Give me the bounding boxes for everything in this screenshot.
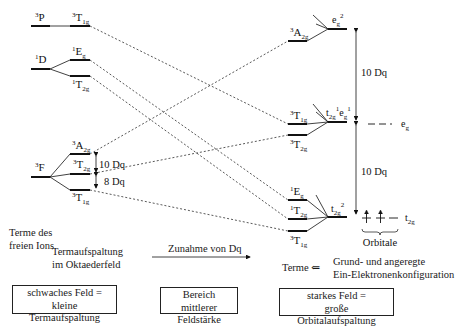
config-caption: Grund- und angeregte Ein-Elektronenkonfi… [333, 256, 454, 281]
free-ion-line2: freien Ions [9, 240, 54, 253]
config-line2: Ein-Elektronenkonfiguration [333, 269, 454, 282]
config-line1: Grund- und angeregte [333, 256, 454, 269]
label-3T1g-weak-top: 3T1g [72, 11, 90, 26]
weak-field-line1: schwaches Feld = [17, 287, 112, 300]
label-3P: 3P [35, 11, 45, 23]
label-1T2g-strong: 1T2g [290, 204, 308, 219]
strong-field-line2: große Orbitalaufspaltung [284, 303, 389, 328]
label-3F: 3F [35, 161, 45, 173]
label-eg2: eg2 [332, 12, 344, 28]
label-3T1g-strong-mid: 3T1g [290, 109, 308, 124]
mid-field-line1: Bereich mittlerer [165, 289, 233, 314]
free-ion-caption: Terme des freien Ions [9, 227, 54, 252]
splitting-line1: Termaufspaltung [52, 246, 123, 259]
label-3A2g-strong: 3A2g [290, 26, 309, 41]
label-3T1g-strong: 3T1g [290, 234, 308, 249]
mid-field-box: Bereich mittlerer Feldstärke [160, 287, 238, 314]
strong-field-box: starkes Feld = große Orbitalaufspaltung [279, 288, 394, 316]
label-1Eg-weak: 1Eg [72, 45, 86, 60]
label-10dq-weak: 10 Dq [99, 159, 126, 170]
free-ion-line1: Terme des [9, 227, 54, 240]
label-3T1g-weak: 3T1g [72, 191, 90, 206]
label-3T2g-strong: 3T2g [290, 138, 308, 153]
label-orbital-t2g: t2g [405, 212, 415, 226]
strong-field-line1: starkes Feld = [284, 290, 389, 303]
splitting-line2: im Oktaederfeld [52, 259, 123, 272]
label-3A2g-weak: 3A2g [72, 139, 91, 154]
label-1D: 1D [35, 53, 47, 65]
label-10dq-strong-lower: 10 Dq [361, 166, 388, 177]
label-8dq-weak: 8 Dq [104, 176, 125, 187]
increase-caption: Zunahme von Dq [168, 243, 242, 256]
label-1Eg-strong: 1Eg [290, 185, 304, 200]
splitting-caption: Termaufspaltung im Oktaederfeld [52, 246, 123, 271]
label-t2g2: t2g2 [331, 201, 345, 217]
label-3T2g-weak: 3T2g [73, 158, 91, 173]
weak-field-box: schwaches Feld = kleine Termaufspaltung [12, 285, 117, 314]
label-orbital-eg: eg [401, 118, 409, 132]
correlation-lines [90, 26, 288, 231]
orbitals-t2g [362, 210, 398, 223]
mid-field-line2: Feldstärke [165, 314, 233, 327]
label-orbitale: Orbitale [363, 237, 398, 248]
label-10dq-strong-upper: 10 Dq [361, 67, 388, 78]
weak-field-line2: kleine Termaufspaltung [17, 300, 112, 325]
label-1T2g-weak: 1T2g [72, 78, 90, 93]
label-t2g1eg1: t2g1eg1 [326, 105, 351, 121]
orbital-brace [362, 229, 398, 235]
terme-arrow-caption: Terme ⇐ [282, 262, 320, 275]
